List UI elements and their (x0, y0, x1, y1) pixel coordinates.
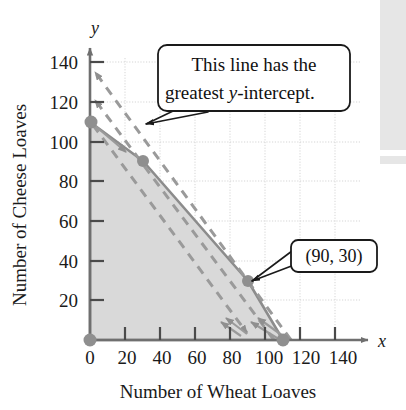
y-tick-label-20: 20 (59, 290, 78, 311)
callout-text-line2: greatest y-intercept. (165, 82, 315, 103)
x-tick-label-0: 0 (85, 347, 95, 368)
y-tick-label-40: 40 (59, 251, 78, 272)
figure-container: 0 20 40 60 80 100 120 140 20 40 60 80 10… (0, 0, 406, 410)
y-tick-label-80: 80 (59, 171, 78, 192)
y-axis-variable-label: y (89, 18, 99, 38)
callout-text-line2-a: greatest (165, 82, 229, 103)
vertex-marker-30-90 (137, 155, 149, 167)
vertex-marker-110-0 (277, 334, 290, 347)
x-tick-label-140: 140 (329, 347, 358, 368)
callout-text-line2-b: -intercept. (237, 82, 315, 103)
x-axis-title: Number of Wheat Loaves (120, 381, 316, 402)
y-tick-label-100: 100 (50, 132, 79, 153)
x-tick-label-60: 60 (188, 347, 207, 368)
x-tick-label-100: 100 (255, 347, 284, 368)
vertex-marker-origin (84, 334, 97, 347)
x-tick-label-80: 80 (223, 347, 242, 368)
callout-text-line1: This line has the (191, 54, 316, 75)
y-tick-label-140: 140 (50, 52, 79, 73)
point-label-90-30: (90, 30) (252, 240, 377, 281)
y-tick-labels: 20 40 60 80 100 120 140 (50, 52, 79, 311)
feasible-region-shaded (90, 122, 283, 340)
y-tick-label-60: 60 (59, 211, 78, 232)
vertex-marker-0-110 (85, 116, 98, 129)
point-label-text: (90, 30) (306, 246, 363, 267)
x-tick-label-40: 40 (153, 347, 172, 368)
linear-programming-chart: 0 20 40 60 80 100 120 140 20 40 60 80 10… (0, 0, 406, 410)
x-tick-labels: 0 20 40 60 80 100 120 140 (85, 347, 357, 368)
callout-greatest-y-intercept: This line has the greatest y-intercept. (146, 45, 350, 124)
x-axis-variable-label: x (377, 331, 386, 351)
x-tick-label-20: 20 (118, 347, 137, 368)
x-tick-label-120: 120 (292, 347, 321, 368)
y-axis-title: Number of Cheese Loaves (9, 104, 30, 306)
callout-text-line2-italic: y (227, 82, 238, 103)
y-tick-label-120: 120 (50, 92, 79, 113)
